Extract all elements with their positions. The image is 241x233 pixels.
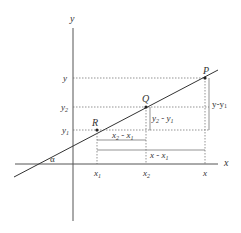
- point-p-label: P: [202, 65, 209, 76]
- angle-alpha-label: α: [50, 154, 55, 164]
- x-tick-x1: x1: [93, 168, 101, 179]
- point-r-label: R: [91, 117, 98, 128]
- x-axis-label: x: [223, 157, 229, 168]
- y-tick-y2: y2: [60, 102, 68, 113]
- label-y-minus-y1: y-y1: [212, 99, 227, 109]
- point-q: [144, 105, 147, 108]
- coordinate-diagram: y x α P Q R y y2 y1 x1 x2 x x2 - x1 x - …: [0, 0, 241, 233]
- label-y2-minus-y1: y2 - y1: [151, 113, 174, 124]
- point-q-label: Q: [142, 93, 150, 104]
- x-tick-x2: x2: [142, 168, 150, 179]
- x-tick-x: x: [202, 168, 207, 178]
- y-tick-y: y: [62, 73, 67, 83]
- sloped-line: [14, 70, 218, 177]
- y-tick-y1: y1: [61, 125, 69, 136]
- point-r: [95, 128, 98, 131]
- label-x-minus-x1: x - x1: [149, 150, 169, 161]
- y-axis-label: y: [69, 13, 75, 24]
- point-p: [203, 76, 206, 79]
- label-x2-minus-x1: x2 - x1: [111, 130, 134, 141]
